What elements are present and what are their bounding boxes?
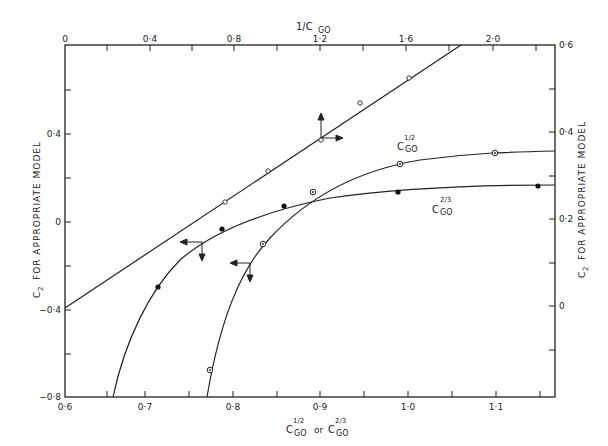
svg-text:0·9: 0·9 [313,402,328,412]
svg-text:1·0: 1·0 [401,402,416,412]
svg-text:2/3: 2/3 [440,196,451,204]
svg-text:or: or [314,425,324,435]
top-axis-labels: 0 0·4 0·8 1·2 1·6 2·0 [62,34,500,44]
right-axis-title: C 2 FOR APPROPRIATE MODEL [577,121,590,278]
svg-text:GO: GO [336,429,349,438]
svg-text:2/3: 2/3 [335,417,346,425]
top-axis-ticks [107,45,536,51]
bottom-axis-labels: 0·6 0·7 0·8 0·9 1·0 1·1 [58,402,503,412]
series-cgo-half-points [207,150,498,373]
svg-text:FOR APPROPRIATE MODEL: FOR APPROPRIATE MODEL [32,141,42,280]
svg-text:0·6: 0·6 [58,402,73,412]
svg-text:0·8: 0·8 [226,402,241,412]
svg-text:0·6: 0·6 [559,40,574,50]
svg-text:0·4: 0·4 [143,34,158,44]
svg-text:0·4: 0·4 [559,127,574,137]
chart: 0 0·4 0·8 1·2 1·6 2·0 1/C GO 0·6 0·7 0·8… [0,0,608,446]
bottom-axis-ticks [107,391,540,397]
svg-text:0·7: 0·7 [138,402,152,412]
svg-text:1·6: 1·6 [399,34,414,44]
annotation-cgo-half: 1/2 C GO [397,134,418,154]
top-axis-title: 1/C GO [296,21,331,35]
svg-text:1·1: 1·1 [489,402,503,412]
right-axis-ticks [549,89,555,350]
left-axis-labels: 0·4 0 −0·4 −0·8 [39,129,61,402]
left-axis-title: C 2 FOR APPROPRIATE MODEL [32,141,45,298]
svg-text:FOR APPROPRIATE MODEL: FOR APPROPRIATE MODEL [577,121,587,260]
svg-text:1·2: 1·2 [313,34,327,44]
svg-text:−0·8: −0·8 [39,392,61,402]
svg-text:GO: GO [294,429,307,438]
svg-text:0·8: 0·8 [227,34,242,44]
curve-cgo-two-thirds [113,185,555,397]
plot-frame [65,45,555,397]
right-axis-labels: 0·6 0·4 0·2 0 [559,40,574,311]
svg-text:1/2: 1/2 [293,417,304,425]
bottom-axis-title: 1/2 C GO or 2/3 C GO [286,417,349,438]
svg-text:0: 0 [62,34,68,44]
svg-text:2: 2 [582,267,590,271]
svg-text:GO: GO [318,26,331,35]
svg-text:−0·4: −0·4 [39,305,61,315]
svg-text:0·4: 0·4 [47,129,62,139]
svg-text:0·2: 0·2 [559,214,573,224]
line-inverse-cgo [65,45,461,308]
svg-text:C: C [328,424,335,435]
svg-text:C: C [432,204,439,215]
svg-text:GO: GO [405,145,418,154]
svg-text:0: 0 [559,301,565,311]
left-axis-ticks [65,90,71,354]
svg-text:0: 0 [55,217,61,227]
svg-text:C: C [286,424,293,435]
svg-text:C: C [397,141,404,152]
svg-text:C: C [577,272,587,278]
svg-text:1/2: 1/2 [404,134,415,142]
curve-cgo-half [207,151,555,397]
svg-text:GO: GO [440,208,453,217]
annotation-cgo-two-thirds: 2/3 C GO [432,196,453,217]
svg-text:2: 2 [37,287,45,291]
svg-text:2·0: 2·0 [486,34,501,44]
svg-text:C: C [32,292,42,298]
svg-text:1/C: 1/C [296,21,313,32]
